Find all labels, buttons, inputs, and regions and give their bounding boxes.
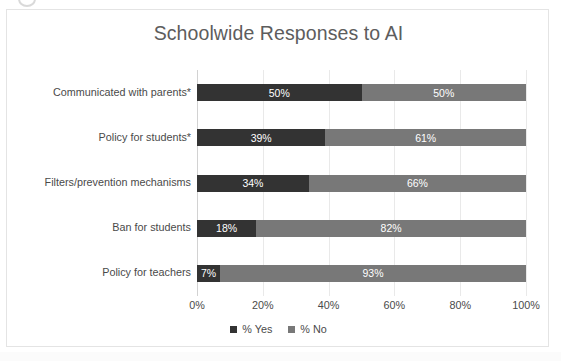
category-axis-label: Filters/prevention mechanisms bbox=[0, 176, 191, 188]
bar-data-label: 50% bbox=[433, 87, 454, 99]
legend-label: % No bbox=[300, 323, 326, 335]
legend-label: % Yes bbox=[242, 323, 272, 335]
page-background-strip bbox=[0, 352, 561, 361]
x-axis-tick-labels: 0%20%40%60%80%100% bbox=[197, 299, 526, 315]
x-axis-tick-label: 60% bbox=[384, 299, 406, 311]
bar-segment: 18% bbox=[197, 220, 256, 237]
category-axis-label: Communicated with parents* bbox=[0, 86, 191, 98]
bar-segment: 93% bbox=[220, 265, 526, 282]
x-axis-tick-label: 100% bbox=[512, 299, 540, 311]
bar-segment: 50% bbox=[362, 84, 527, 101]
bar-segment: 66% bbox=[309, 175, 526, 192]
bar-data-label: 82% bbox=[381, 222, 402, 234]
legend-swatch-icon bbox=[288, 326, 295, 333]
category-axis-label: Policy for students* bbox=[0, 131, 191, 143]
bar-data-label: 7% bbox=[201, 267, 216, 279]
legend-item[interactable]: % Yes bbox=[230, 323, 272, 335]
chart-frame: Schoolwide Responses to AI Communicated … bbox=[6, 9, 549, 347]
bar-data-label: 34% bbox=[242, 177, 263, 189]
scan-artifact bbox=[18, 0, 36, 7]
bar-data-label: 50% bbox=[269, 87, 290, 99]
chart-title: Schoolwide Responses to AI bbox=[7, 22, 550, 45]
bar-row: 39%61% bbox=[197, 129, 526, 146]
bar-data-label: 18% bbox=[216, 222, 237, 234]
category-axis-label: Ban for students bbox=[0, 221, 191, 233]
bar-segment: 50% bbox=[197, 84, 362, 101]
bar-row: 50%50% bbox=[197, 84, 526, 101]
bar-data-label: 66% bbox=[407, 177, 428, 189]
category-axis-label: Policy for teachers bbox=[0, 266, 191, 278]
x-axis-tick-label: 20% bbox=[252, 299, 274, 311]
x-axis-tick-label: 80% bbox=[449, 299, 471, 311]
plot-area: 50%50%39%61%34%66%18%82%7%93% bbox=[197, 70, 526, 296]
bar-data-label: 39% bbox=[251, 132, 272, 144]
bar-row: 7%93% bbox=[197, 265, 526, 282]
legend-swatch-icon bbox=[230, 326, 237, 333]
category-axis-labels: Communicated with parents*Policy for stu… bbox=[0, 70, 191, 296]
bar-data-label: 61% bbox=[415, 132, 436, 144]
bar-segment: 82% bbox=[256, 220, 526, 237]
bar-segment: 39% bbox=[197, 129, 325, 146]
bar-row: 18%82% bbox=[197, 220, 526, 237]
legend-item[interactable]: % No bbox=[288, 323, 326, 335]
bar-segment: 61% bbox=[325, 129, 526, 146]
x-axis-tick-label: 0% bbox=[189, 299, 205, 311]
bar-row: 34%66% bbox=[197, 175, 526, 192]
gridline bbox=[526, 70, 527, 296]
bar-segment: 7% bbox=[197, 265, 220, 282]
chart-legend: % Yes% No bbox=[7, 323, 550, 335]
bar-segment: 34% bbox=[197, 175, 309, 192]
bar-data-label: 93% bbox=[362, 267, 383, 279]
x-axis-tick-label: 40% bbox=[318, 299, 340, 311]
